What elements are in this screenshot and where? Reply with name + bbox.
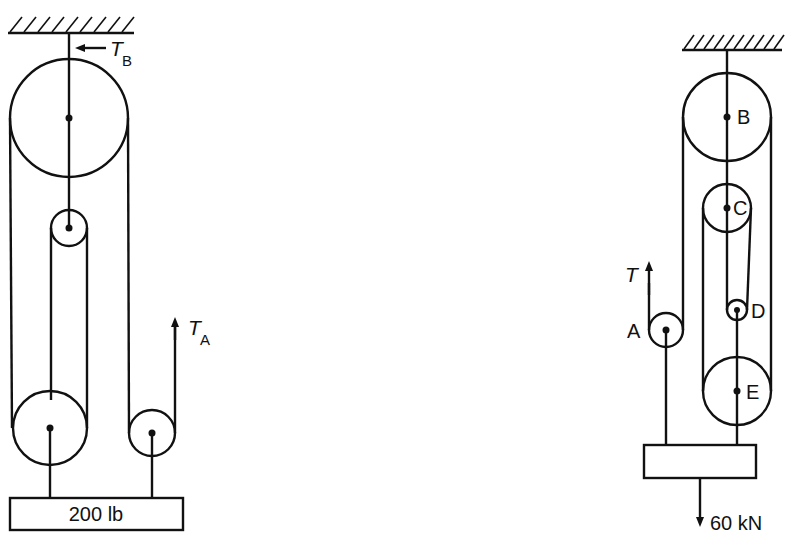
pulley-e-label: E: [746, 381, 759, 403]
load-force-label: 60 kN: [710, 512, 762, 534]
pulley-c-label: C: [733, 197, 747, 219]
pulley-diagrams: T A T B 200 lb: [0, 0, 808, 560]
left-pulley-system: T A T B 200 lb: [8, 17, 210, 530]
pulley-d-label: D: [751, 300, 765, 322]
tension-b-subscript: B: [122, 52, 132, 69]
right-load-block: [644, 445, 756, 478]
pulley-a-label: A: [627, 320, 641, 342]
left-ropes: [10, 118, 175, 498]
tension-symbol: T: [625, 263, 640, 286]
left-ceiling: [8, 17, 134, 33]
right-ceiling: [682, 35, 784, 50]
tension-a-subscript: A: [200, 331, 210, 348]
right-pulley-system: B C D A E T: [625, 35, 784, 534]
pulley-b-label: B: [737, 106, 750, 128]
left-load-label: 200 lb: [69, 503, 124, 525]
